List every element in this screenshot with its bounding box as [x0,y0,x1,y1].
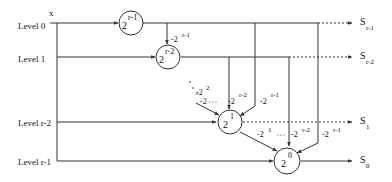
svg-text:-2: -2 [196,88,203,97]
weight-label-1: -2 2 [196,84,210,97]
svg-text:1: 1 [366,123,370,131]
svg-text:r-1: r-1 [128,13,137,22]
weight-label-4: -2 r-1 [260,91,280,106]
weight-label-6: -2 r-2 [291,126,311,139]
svg-text:r-1: r-1 [182,31,191,39]
svg-text:r-1: r-1 [366,24,375,32]
level-label-r-1: Level r-1 [18,157,51,167]
svg-text:-2: -2 [228,97,235,106]
weight-label-7: -2 r-1 [322,126,342,139]
svg-text:2: 2 [122,20,127,31]
weight-label-5: -2 1 [257,126,272,139]
node-2-0: 2 0 [274,148,300,174]
node-2-1: 2 1 [218,110,242,134]
output-s-r-1: S r-1 [360,16,375,32]
level-label-1: Level 1 [18,54,45,64]
svg-text:S: S [360,50,366,61]
svg-text:S: S [360,115,366,126]
svg-text:-2: -2 [200,97,207,106]
svg-text:-2: -2 [257,130,264,139]
weight-label-0: -2 r-1 [171,31,191,44]
input-label: x [49,8,54,18]
level-label-r-2: Level r-2 [18,118,51,128]
svg-text:1: 1 [230,112,234,121]
svg-text:-2: -2 [260,97,267,106]
svg-text:-2: -2 [171,35,178,44]
svg-text:r-2: r-2 [165,47,174,56]
svg-text:S: S [360,154,366,165]
svg-text:r-1: r-1 [333,126,342,134]
svg-text:2: 2 [159,54,164,65]
svg-text:2: 2 [281,158,286,169]
svg-text:1: 1 [268,126,272,134]
node-2-r-1: 2 r-1 [119,11,143,35]
svg-text:r-2: r-2 [302,126,311,134]
svg-text:r-2: r-2 [366,58,375,66]
weight-label-3: -2 r-2 [228,91,248,106]
svg-text:r-1: r-1 [271,91,280,99]
weight-label-2: -2 [200,97,207,106]
node-2-r-2: 2 r-2 [156,45,180,69]
level-label-0: Level 0 [18,21,46,31]
output-s-r-2: S r-2 [360,50,375,66]
svg-text:2: 2 [206,84,210,92]
svg-text:r-2: r-2 [239,91,248,99]
svg-text:2: 2 [223,119,228,130]
svg-text:0: 0 [366,162,370,170]
output-s-0: S 0 [360,154,370,170]
svg-text:0: 0 [288,151,292,160]
svg-text:-2: -2 [291,130,298,139]
binary-conversion-diagram: x Level 0 Level 1 Level r-2 Level r-1 [0,0,392,182]
svg-text:S: S [360,16,366,27]
output-s-1: S 1 [360,115,370,131]
svg-text:-2: -2 [322,130,329,139]
